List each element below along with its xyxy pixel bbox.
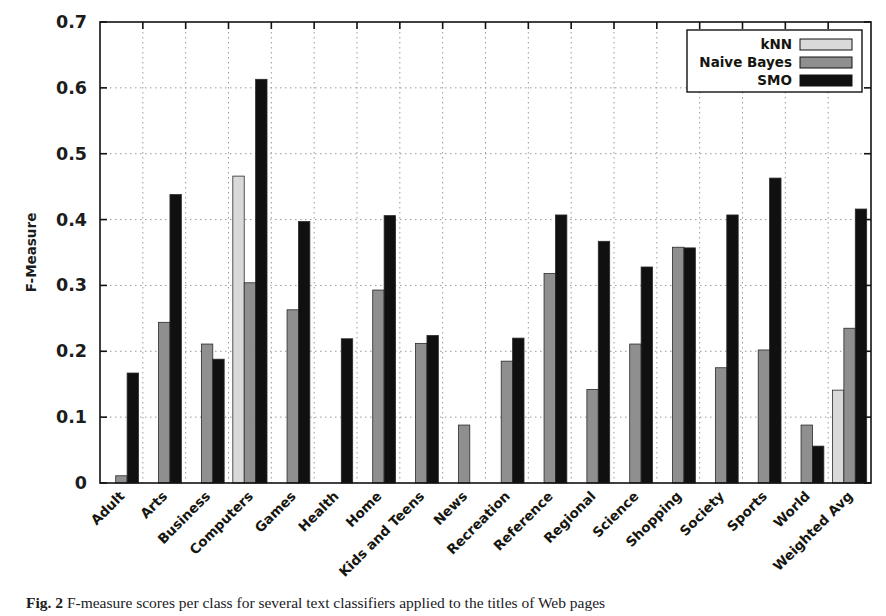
x-axis-tick-label: Society <box>676 488 727 539</box>
bar[interactable] <box>170 195 181 483</box>
x-axis-tick-label: Home <box>342 488 384 530</box>
chart-area: 00.10.20.30.40.50.60.7F-MeasureAdultArts… <box>0 0 886 590</box>
bar[interactable] <box>159 322 170 483</box>
legend-swatch <box>800 39 852 50</box>
bar[interactable] <box>812 446 823 483</box>
x-axis-tick-label: Arts <box>137 488 171 522</box>
x-axis-tick-label: Weighted Avg <box>770 488 856 574</box>
bar[interactable] <box>641 267 652 483</box>
x-axis-tick-label: Games <box>251 488 299 536</box>
bar-group <box>544 215 567 483</box>
bar-group <box>458 425 469 483</box>
bar-group <box>287 222 310 483</box>
bar-group <box>630 267 653 483</box>
figure-caption: Fig. 2 F-measure scores per class for se… <box>26 594 876 612</box>
y-axis-tick-label: 0.4 <box>56 210 87 230</box>
bar[interactable] <box>801 425 812 483</box>
bar[interactable] <box>416 343 427 483</box>
bar-group <box>715 215 738 483</box>
bar[interactable] <box>544 274 555 483</box>
bar-group <box>233 79 267 483</box>
bar[interactable] <box>598 241 609 483</box>
bar[interactable] <box>715 368 726 483</box>
bar-group <box>832 209 866 483</box>
bar-group <box>587 241 610 483</box>
bar[interactable] <box>458 425 469 483</box>
bar[interactable] <box>555 215 566 483</box>
legend-swatch <box>800 75 852 86</box>
bar-chart: 00.10.20.30.40.50.60.7F-MeasureAdultArts… <box>0 0 886 590</box>
bar[interactable] <box>384 216 395 483</box>
x-axis-tick-label: Health <box>295 488 342 535</box>
bar[interactable] <box>770 178 781 483</box>
x-axis-tick-label: Sports <box>723 488 770 535</box>
bar-group <box>341 339 352 483</box>
bar[interactable] <box>298 222 309 483</box>
bar-group <box>801 425 824 483</box>
bar[interactable] <box>844 328 855 483</box>
x-axis-tick-label: News <box>430 488 470 528</box>
bar[interactable] <box>427 335 438 483</box>
bar[interactable] <box>727 215 738 483</box>
bar-group <box>416 335 439 483</box>
y-axis-tick-label: 0.1 <box>56 407 87 427</box>
legend-label: SMO <box>757 72 792 88</box>
y-axis-tick-label: 0.3 <box>56 275 87 295</box>
bar[interactable] <box>116 476 127 483</box>
bar[interactable] <box>684 248 695 483</box>
bar-group <box>201 344 224 483</box>
bar[interactable] <box>501 361 512 483</box>
bar[interactable] <box>341 339 352 483</box>
y-axis-tick-label: 0.6 <box>56 78 87 98</box>
legend-label: kNN <box>760 36 792 52</box>
bar[interactable] <box>855 209 866 483</box>
y-axis-tick-label: 0.2 <box>56 341 87 361</box>
bar[interactable] <box>630 344 641 483</box>
bar-group <box>159 195 182 483</box>
bar-group <box>758 178 781 483</box>
x-axis-tick-label: World <box>770 488 813 531</box>
bar[interactable] <box>201 344 212 483</box>
y-axis-tick-label: 0.5 <box>56 144 87 164</box>
bar-group <box>116 373 139 483</box>
bar-group <box>373 216 396 483</box>
bar[interactable] <box>233 176 244 483</box>
x-axis-tick-label: Adult <box>87 487 128 528</box>
caption-figure-number: Fig. 2 <box>26 594 63 611</box>
bar[interactable] <box>256 79 267 483</box>
caption-text: F-measure scores per class for several t… <box>67 594 605 611</box>
bar[interactable] <box>127 373 138 483</box>
bar[interactable] <box>213 359 224 483</box>
bar[interactable] <box>244 283 255 483</box>
bar[interactable] <box>373 290 384 483</box>
bar[interactable] <box>832 390 843 483</box>
y-axis-title: F-Measure <box>23 213 39 293</box>
bar-group <box>673 247 696 483</box>
bar[interactable] <box>287 310 298 483</box>
legend-swatch <box>800 57 852 68</box>
bar[interactable] <box>587 389 598 483</box>
bar[interactable] <box>758 350 769 483</box>
figure-container: 00.10.20.30.40.50.60.7F-MeasureAdultArts… <box>0 0 886 616</box>
legend-label: Naive Bayes <box>699 54 792 70</box>
y-axis-tick-label: 0 <box>75 473 87 493</box>
bar-group <box>501 338 524 483</box>
bar[interactable] <box>513 338 524 483</box>
y-axis-tick-label: 0.7 <box>56 12 87 32</box>
bar[interactable] <box>673 247 684 483</box>
